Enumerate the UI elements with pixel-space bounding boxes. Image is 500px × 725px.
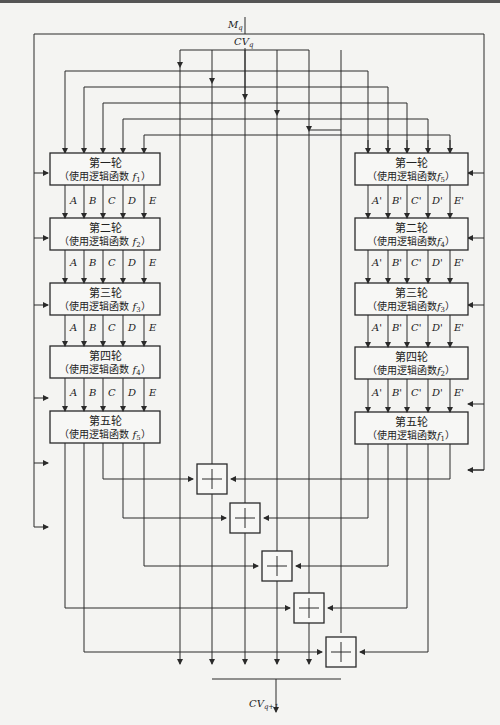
svg-text:第五轮: 第五轮 — [89, 414, 122, 428]
adder-5 — [326, 637, 356, 667]
right-line: 第一轮 （使用逻辑函数f5） 第二轮 （使用逻辑函数f4） 第三轮 （使用逻辑函… — [355, 153, 468, 444]
svg-text:第二轮: 第二轮 — [395, 221, 428, 235]
output-label: CVq+1 — [249, 698, 279, 711]
svg-text:C: C — [108, 195, 116, 206]
svg-text:B': B' — [391, 322, 402, 333]
svg-text:E: E — [148, 387, 157, 398]
right-round-2: 第二轮 （使用逻辑函数f4） — [355, 218, 468, 250]
svg-text:B: B — [88, 257, 96, 268]
svg-text:C: C — [108, 387, 116, 398]
svg-text:A': A' — [371, 387, 382, 398]
svg-text:A: A — [69, 195, 77, 206]
svg-text:第一轮: 第一轮 — [89, 156, 122, 170]
svg-text:C: C — [108, 257, 116, 268]
left-round-4: 第四轮 （使用逻辑函数 f4） — [50, 346, 160, 378]
svg-text:C': C' — [411, 257, 421, 268]
svg-text:第四轮: 第四轮 — [395, 350, 428, 364]
message-label: Mq — [227, 19, 243, 32]
right-round-3: 第三轮 （使用逻辑函数f3） — [355, 283, 468, 315]
adder-3 — [262, 551, 292, 581]
right-round-5: 第五轮 （使用逻辑函数f1） — [355, 412, 468, 444]
right-round-4: 第四轮 （使用逻辑函数f2） — [355, 347, 468, 379]
left-round-2: 第二轮 （使用逻辑函数 f2） — [50, 218, 160, 250]
svg-text:E: E — [148, 257, 157, 268]
svg-text:D: D — [127, 387, 136, 398]
svg-text:B: B — [88, 387, 96, 398]
svg-text:D': D' — [431, 387, 443, 398]
svg-text:B: B — [88, 195, 96, 206]
svg-text:E': E' — [453, 322, 464, 333]
svg-text:B': B' — [391, 257, 402, 268]
svg-text:B': B' — [391, 195, 402, 206]
right-round-1: 第一轮 （使用逻辑函数f5） — [355, 153, 468, 185]
svg-text:第一轮: 第一轮 — [395, 156, 428, 170]
svg-text:A: A — [69, 387, 77, 398]
svg-text:第三轮: 第三轮 — [395, 286, 428, 300]
svg-text:E': E' — [453, 387, 464, 398]
chaining-label: CVq — [234, 36, 254, 49]
adder-4 — [294, 593, 324, 623]
svg-text:C: C — [108, 322, 116, 333]
adder-1 — [197, 464, 227, 494]
svg-text:第三轮: 第三轮 — [89, 286, 122, 300]
svg-text:A': A' — [371, 322, 382, 333]
svg-text:B': B' — [391, 387, 402, 398]
left-round-1: 第一轮 （使用逻辑函数 f1） — [50, 153, 160, 185]
svg-text:E': E' — [453, 195, 464, 206]
svg-text:D': D' — [431, 322, 443, 333]
message-input: Mq — [34, 17, 484, 527]
left-round-3: 第三轮 （使用逻辑函数 f3） — [50, 283, 160, 315]
svg-text:A: A — [69, 322, 77, 333]
svg-text:第五轮: 第五轮 — [395, 415, 428, 429]
left-round-5: 第五轮 （使用逻辑函数 f5） — [50, 411, 160, 443]
svg-text:C': C' — [411, 387, 421, 398]
svg-text:C': C' — [411, 195, 421, 206]
svg-text:D: D — [127, 195, 136, 206]
svg-text:D: D — [127, 322, 136, 333]
svg-text:E: E — [148, 195, 157, 206]
svg-text:D': D' — [431, 257, 443, 268]
svg-text:C': C' — [411, 322, 421, 333]
svg-text:E': E' — [453, 257, 464, 268]
svg-text:D': D' — [431, 195, 443, 206]
svg-text:A: A — [69, 257, 77, 268]
svg-text:第二轮: 第二轮 — [89, 221, 122, 235]
svg-text:第四轮: 第四轮 — [89, 349, 122, 363]
svg-text:A': A' — [371, 195, 382, 206]
svg-text:B: B — [88, 322, 96, 333]
ripemd160-diagram: Mq CVq — [0, 0, 500, 725]
chaining-output: CVq+1 — [249, 679, 279, 712]
adder-2 — [230, 503, 260, 533]
svg-text:A': A' — [371, 257, 382, 268]
svg-text:D: D — [127, 257, 136, 268]
left-line: 第一轮 （使用逻辑函数 f1） 第二轮 （使用逻辑函数 f2） 第三轮 （使用逻… — [50, 153, 160, 443]
svg-text:E: E — [148, 322, 157, 333]
